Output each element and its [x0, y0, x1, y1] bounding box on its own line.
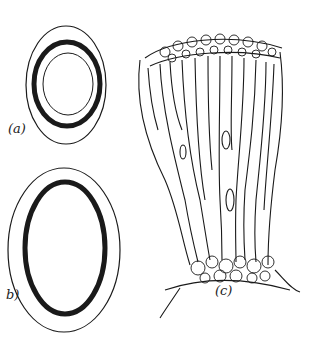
- drawing-canvas: [0, 0, 315, 337]
- botanical-figure: (a) b) (c): [0, 0, 315, 337]
- panel-a-label: (a): [8, 121, 26, 136]
- panel-b-drawing: [8, 168, 120, 332]
- panel-a-drawing: [26, 26, 106, 144]
- panel-c-label: (c): [215, 283, 232, 298]
- panel-b-label: b): [6, 287, 19, 302]
- panel-c-drawing: [139, 34, 300, 318]
